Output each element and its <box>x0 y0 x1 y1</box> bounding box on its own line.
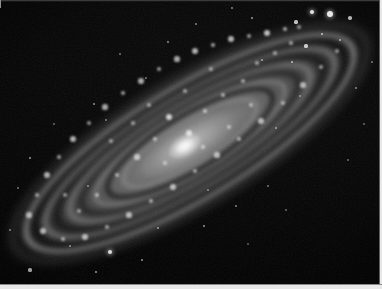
hii-knot <box>209 67 213 71</box>
foreground-star <box>247 243 249 245</box>
frame-border-left <box>0 0 1 8</box>
foreground-star <box>347 159 349 161</box>
hii-knot <box>131 121 135 125</box>
frame-border-top-inner <box>0 1 382 2</box>
hii-knot <box>40 228 46 234</box>
foreground-star <box>87 185 89 187</box>
hii-knot <box>228 36 234 42</box>
hii-knot <box>258 118 264 124</box>
frame-border-right-inner <box>379 0 380 286</box>
hii-knot <box>102 104 107 109</box>
hii-knot <box>82 234 88 240</box>
night-sky-field <box>0 2 379 284</box>
hii-knot <box>201 145 205 149</box>
hii-knot <box>227 125 231 129</box>
hii-knot <box>126 212 131 217</box>
hii-knot <box>26 212 31 217</box>
foreground-star <box>363 123 365 125</box>
foreground-star <box>267 185 269 187</box>
hii-knot <box>297 25 301 29</box>
hii-knot <box>170 184 176 190</box>
foreground-star <box>17 187 19 189</box>
hii-knot <box>249 103 253 107</box>
spiral-galaxy <box>0 2 379 284</box>
hii-knot <box>147 103 151 107</box>
foreground-star <box>108 250 112 254</box>
hii-knot <box>214 152 219 157</box>
hii-knot <box>134 154 139 159</box>
frame-border-bottom <box>0 285 382 289</box>
hii-knot <box>241 79 245 83</box>
foreground-star <box>285 209 287 211</box>
foreground-star <box>231 7 233 9</box>
galaxy-photo-page <box>0 0 382 289</box>
hii-knot <box>163 161 167 165</box>
hii-knot <box>186 130 191 135</box>
hii-knot <box>174 56 179 61</box>
photographic-plate <box>0 0 382 289</box>
hii-knot <box>70 136 76 142</box>
foreground-star <box>207 189 209 191</box>
hii-knot <box>109 139 113 143</box>
foreground-star <box>299 95 301 97</box>
foreground-star <box>294 20 297 23</box>
hii-knot <box>183 89 187 93</box>
foreground-star <box>348 16 352 20</box>
foreground-star <box>53 123 55 125</box>
foreground-star <box>119 53 121 55</box>
foreground-star <box>145 77 147 79</box>
hii-knot <box>138 78 144 84</box>
hii-knot <box>192 48 198 54</box>
foreground-star <box>105 119 107 121</box>
foreground-star <box>195 23 197 25</box>
foreground-star <box>304 44 307 47</box>
hii-knot <box>77 209 81 213</box>
hii-knot <box>44 172 50 178</box>
foreground-star <box>371 61 373 63</box>
hii-knot <box>335 49 339 53</box>
hii-knot <box>300 82 305 87</box>
foreground-star <box>28 268 31 271</box>
hii-knot <box>273 51 277 55</box>
